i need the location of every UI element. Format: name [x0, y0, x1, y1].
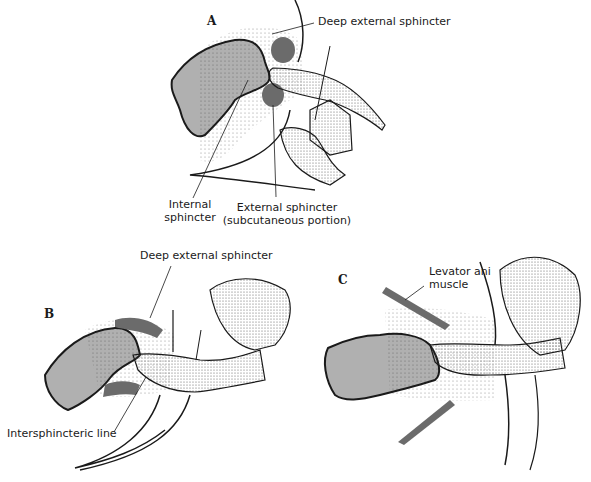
label-external-line1: External sphincter: [222, 201, 352, 214]
label-internal-sphincter: Internal sphincter: [160, 198, 220, 224]
panel-a: [172, 0, 385, 198]
label-external-line2: (subcutaneous portion): [222, 214, 352, 227]
label-intersphincteric-line: Intersphincteric line: [7, 427, 117, 440]
panel-c-hand: [500, 257, 580, 355]
panel-c-letter: C: [338, 273, 348, 287]
panel-b-letter: B: [44, 307, 54, 321]
panel-c-levator-lower: [398, 400, 455, 445]
label-deep-external-sphincter-a: Deep external sphincter: [318, 15, 451, 28]
panel-a-deep-sphincter: [271, 37, 295, 63]
anatomical-illustration: [0, 0, 591, 482]
label-levator-line1: Levator ani: [429, 265, 491, 278]
label-internal-line1: Internal: [160, 198, 220, 211]
label-levator-ani-muscle: Levator ani muscle: [429, 265, 491, 291]
label-levator-line2: muscle: [429, 278, 491, 291]
label-internal-line2: sphincter: [160, 211, 220, 224]
panel-a-letter: A: [207, 14, 216, 28]
panel-b-hand: [210, 279, 290, 350]
label-external-sphincter-subcutaneous: External sphincter (subcutaneous portion…: [222, 201, 352, 227]
label-deep-external-sphincter-b: Deep external sphincter: [140, 249, 273, 262]
